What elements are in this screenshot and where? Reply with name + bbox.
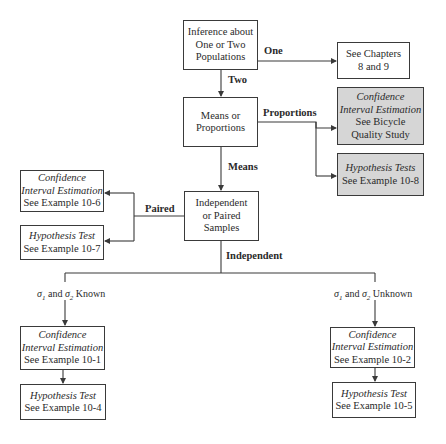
- node-inference: Inference about One or Two Populations: [183, 20, 258, 70]
- node-text: See Example 10-7: [24, 243, 101, 256]
- node-known-ci: Confidence Interval Estimation See Examp…: [20, 326, 105, 370]
- node-text: Quality Study: [351, 129, 410, 142]
- edge-label-one: One: [264, 45, 283, 56]
- node-text: Interval Estimation: [21, 185, 102, 198]
- node-text: Interval Estimation: [332, 341, 413, 354]
- node-text: Confidence: [39, 329, 87, 342]
- node-text: See Example 10-4: [25, 402, 102, 415]
- node-unknown-ci: Confidence Interval Estimation See Examp…: [330, 327, 415, 368]
- node-text: See Chapters: [346, 48, 401, 61]
- label-sigma-unknown: σ1 and σ2 Unknown: [334, 288, 412, 302]
- node-text: See Example 10-2: [334, 354, 411, 367]
- node-unknown-hypothesis-test: Hypothesis Test See Example 10-5: [332, 382, 416, 418]
- edge-label-two: Two: [228, 74, 247, 85]
- node-paired-ci: Confidence Interval Estimation See Examp…: [20, 170, 104, 212]
- node-text: Samples: [204, 222, 240, 235]
- node-text: See Bicycle: [356, 116, 406, 129]
- node-text: Inference about: [188, 26, 254, 39]
- node-text: Proportions: [196, 122, 245, 135]
- node-proportion-hypothesis-tests: Hypothesis Tests See Example 10-8: [337, 153, 424, 196]
- node-text: Interval Estimation: [22, 342, 103, 355]
- node-text: Confidence: [349, 329, 397, 342]
- node-text: One or Two: [196, 39, 246, 52]
- node-text: Populations: [196, 51, 246, 64]
- node-text: Interval Estimation: [340, 104, 421, 117]
- node-text: Hypothesis Test: [341, 388, 407, 401]
- node-text: See Example 10-6: [24, 197, 101, 210]
- edge-label-means: Means: [228, 161, 258, 172]
- node-known-hypothesis-test: Hypothesis Test See Example 10-4: [20, 384, 106, 420]
- node-text: 8 and 9: [358, 61, 389, 74]
- node-text: Independent: [196, 197, 248, 210]
- node-text: See Example 10-5: [336, 400, 413, 413]
- label-sigma-known: σ1 and σ2 Known: [37, 288, 105, 302]
- node-text: Means or: [201, 110, 240, 123]
- edge-label-independent: Independent: [226, 250, 283, 261]
- node-text: See Example 10-1: [24, 354, 101, 367]
- node-text: Confidence: [38, 172, 86, 185]
- node-text: Hypothesis Test: [29, 230, 95, 243]
- node-text: Confidence: [357, 91, 405, 104]
- node-text: or Paired: [202, 210, 240, 223]
- node-text: Hypothesis Tests: [346, 162, 416, 175]
- node-text: See Example 10-8: [342, 175, 419, 188]
- node-means-or-proportions: Means or Proportions: [183, 97, 258, 147]
- edge-label-proportions: Proportions: [263, 107, 316, 118]
- edge-label-paired: Paired: [145, 203, 175, 214]
- node-independent-or-paired: Independent or Paired Samples: [184, 191, 259, 241]
- flowchart: Inference about One or Two Populations S…: [0, 0, 446, 444]
- node-proportion-ci: Confidence Interval Estimation See Bicyc…: [337, 87, 424, 145]
- node-paired-hypothesis-test: Hypothesis Test See Example 10-7: [20, 225, 104, 260]
- node-see-chapters: See Chapters 8 and 9: [337, 42, 410, 79]
- node-text: Hypothesis Test: [30, 390, 96, 403]
